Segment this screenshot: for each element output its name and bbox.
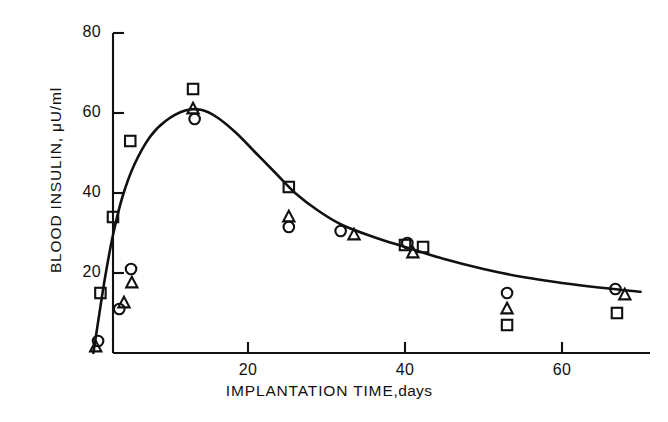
square-data-marker <box>125 136 135 146</box>
triangle-data-marker <box>126 277 137 288</box>
x-axis-title-main: IMPLANTATION TIME <box>226 382 394 399</box>
square-data-marker <box>612 308 622 318</box>
y-axis-tick-label: 20 <box>61 263 101 281</box>
y-axis-tick-label: 60 <box>61 103 101 121</box>
x-axis-tick-label: 20 <box>228 361 268 379</box>
series-square <box>95 84 622 330</box>
circle-data-marker <box>126 264 137 275</box>
circle-data-marker <box>189 114 200 125</box>
circle-data-marker <box>335 226 346 237</box>
square-data-marker <box>502 320 512 330</box>
insulin-implantation-figure: BLOOD INSULIN, μU/ml IMPLANTATION TIME,d… <box>0 0 668 422</box>
circle-data-marker <box>284 222 295 233</box>
x-axis-title-units: ,days <box>394 382 433 399</box>
triangle-data-marker <box>501 303 512 314</box>
series-triangle <box>90 103 630 352</box>
chart-plot-area <box>0 0 668 422</box>
x-axis-tick-label: 40 <box>385 361 425 379</box>
triangle-data-marker <box>283 211 294 222</box>
y-axis-tick-label: 80 <box>61 23 101 41</box>
y-axis-tick-label: 40 <box>61 183 101 201</box>
square-data-marker <box>188 84 198 94</box>
x-axis-tick-label: 60 <box>542 361 582 379</box>
x-axis-title: IMPLANTATION TIME,days <box>164 382 494 400</box>
fitted-trend-curve <box>93 109 640 353</box>
circle-data-marker <box>502 288 513 299</box>
